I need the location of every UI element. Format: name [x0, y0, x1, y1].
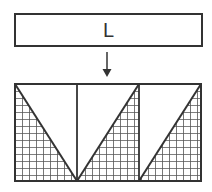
diagram-canvas — [0, 0, 212, 192]
down-arrow-icon — [103, 52, 112, 77]
bottom-panel — [15, 84, 201, 181]
